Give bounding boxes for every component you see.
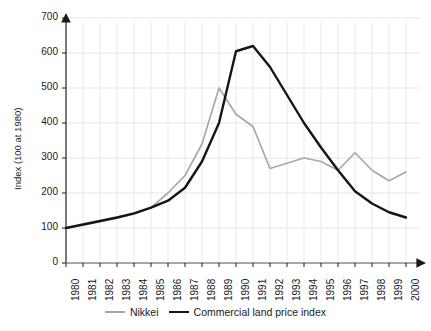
legend-swatch-commercial-land-price-index — [169, 311, 189, 313]
legend-label-commercial-land-price-index: Commercial land price index — [194, 306, 326, 318]
legend-label-nikkei: Nikkei — [130, 306, 159, 318]
plot-area — [0, 0, 431, 331]
legend-swatch-nikkei — [105, 311, 125, 313]
legend-item-nikkei: Nikkei — [105, 306, 159, 318]
gridlines — [66, 18, 420, 263]
chart-container: Index (100 at 1980) 01002003004005006007… — [0, 0, 431, 331]
axes — [62, 18, 418, 267]
legend-item-commercial-land-price-index: Commercial land price index — [169, 306, 326, 318]
chart-legend: Nikkei Commercial land price index — [0, 306, 431, 318]
